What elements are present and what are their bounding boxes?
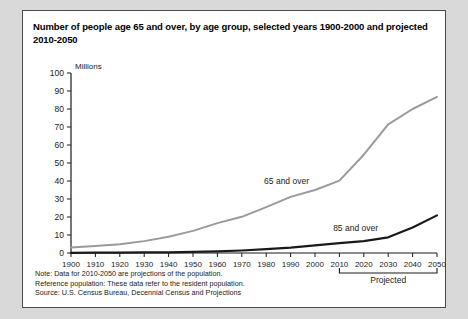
x-tick-label: 1950 — [184, 260, 202, 269]
y-axis-title: Millions — [75, 62, 102, 71]
y-tick-label: 30 — [55, 194, 65, 204]
x-tick-label: 1940 — [160, 260, 178, 269]
x-tick-label: 2010 — [331, 260, 349, 269]
series-label-65-and-over: 65 and over — [264, 176, 309, 186]
y-tick-label: 100 — [50, 68, 64, 78]
x-tick-label: 1900 — [62, 260, 80, 269]
y-tick-label: 20 — [55, 212, 65, 222]
x-tick-label: 2040 — [404, 260, 422, 269]
footnotes: Note: Data for 2010-2050 are projections… — [35, 269, 435, 298]
line-chart: Millions01020304050607080901001900191019… — [23, 11, 447, 309]
y-tick-label: 0 — [59, 248, 64, 258]
y-tick-label: 80 — [55, 104, 65, 114]
x-tick-label: 2020 — [355, 260, 373, 269]
x-tick-label: 2000 — [306, 260, 324, 269]
y-tick-label: 70 — [55, 122, 65, 132]
y-tick-label: 90 — [55, 86, 65, 96]
series-label-85-and-over: 85 and over — [333, 223, 378, 233]
x-tick-label: 1960 — [209, 260, 227, 269]
x-tick-label: 1990 — [282, 260, 300, 269]
x-tick-label: 1930 — [135, 260, 153, 269]
chart-panel: Number of people age 65 and over, by age… — [22, 10, 446, 308]
x-tick-label: 1970 — [233, 260, 251, 269]
series-line — [71, 97, 437, 247]
footnote-reference: Reference population: These data refer t… — [35, 279, 435, 289]
y-tick-label: 10 — [55, 230, 65, 240]
y-tick-label: 50 — [55, 158, 65, 168]
x-tick-label: 2030 — [379, 260, 397, 269]
x-tick-label: 2050 — [428, 260, 446, 269]
y-tick-label: 40 — [55, 176, 65, 186]
footnote-note: Note: Data for 2010-2050 are projections… — [35, 269, 435, 279]
x-tick-label: 1910 — [87, 260, 105, 269]
footnote-source: Source: U.S. Census Bureau, Decennial Ce… — [35, 288, 435, 298]
series-line — [71, 215, 437, 252]
x-tick-label: 1980 — [257, 260, 275, 269]
x-tick-label: 1920 — [111, 260, 129, 269]
y-tick-label: 60 — [55, 140, 65, 150]
